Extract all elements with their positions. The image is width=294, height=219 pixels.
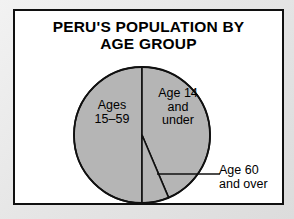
slice-label-age-60-and-over: Age 60 and over [219,163,289,191]
pie-slice-ages-15-59 [74,67,142,203]
slice-label-age-14-and-under: Age 14 and under [147,87,209,128]
screenshot-root: PERU'S POPULATION BY AGE GROUP Ages 15–5… [0,0,294,219]
pie-chart: Ages 15–59 Age 14 and under Age 60 and o… [15,11,286,207]
slice-label-ages-15-59: Ages 15–59 [81,99,143,126]
figure-card: PERU'S POPULATION BY AGE GROUP Ages 15–5… [13,9,284,205]
